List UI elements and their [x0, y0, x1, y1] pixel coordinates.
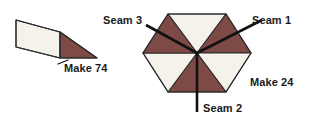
seam-1-label: Seam 1: [252, 14, 291, 26]
quilt-block-diagram: Make 74 Seam 3 Seam 1 Seam 2 Make 24: [0, 0, 313, 119]
make-74-label: Make 74: [64, 62, 108, 74]
make-24-label: Make 24: [250, 76, 294, 88]
left-patch-group: [16, 20, 97, 58]
seam-2-label: Seam 2: [203, 102, 242, 114]
seam-3-label: Seam 3: [103, 14, 142, 26]
diagram-canvas: Make 74 Seam 3 Seam 1 Seam 2 Make 24: [0, 0, 313, 119]
